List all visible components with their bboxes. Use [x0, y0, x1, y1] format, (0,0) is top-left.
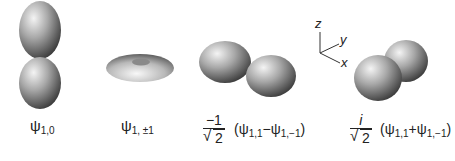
py-coefficient: i √2 — [350, 112, 372, 147]
orbital-psi-1-pm1 — [106, 54, 174, 82]
px-expression: (ψ1,1−ψ1,−1) — [234, 121, 305, 139]
px-coefficient: −1 √2 — [203, 112, 225, 147]
label-psi-1-0: ψ1,0 — [30, 117, 55, 136]
orbital-psi-1-0 — [19, 1, 61, 109]
label-psi-1-pm1: ψ1, ±1 — [121, 117, 154, 136]
axis-z-label: z — [315, 16, 322, 31]
py-expression: (ψ1,1+ψ1,−1) — [380, 121, 451, 139]
axis-x-label: x — [341, 55, 348, 70]
orbital-px — [199, 41, 296, 97]
axes-icon — [320, 32, 340, 63]
orbital-py — [354, 40, 428, 101]
axis-y-label: y — [340, 32, 347, 47]
